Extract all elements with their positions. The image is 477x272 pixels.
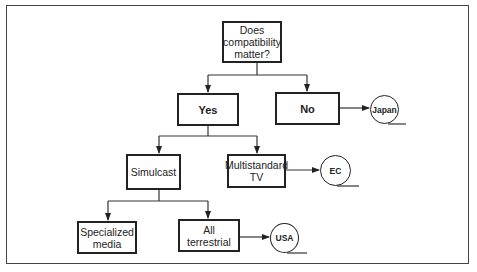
node-label-line: TV [225, 171, 288, 183]
node-label-line: All [187, 224, 231, 236]
node-label: Simulcast [131, 166, 177, 178]
node-label-line: media [80, 238, 134, 250]
node-label-line: Does [223, 24, 281, 36]
node-all-terrestrial: All terrestrial [178, 219, 240, 252]
node-no: No [275, 92, 340, 125]
node-label: No [300, 103, 315, 115]
node-label-line: matter? [223, 48, 281, 60]
node-multistandard-tv: Multistandard TV [227, 154, 286, 188]
terminal-label: Japan [372, 105, 397, 115]
node-specialized-media: Specialized media [77, 221, 137, 254]
terminal-japan: Japan [370, 95, 399, 124]
terminal-usa: USA [270, 223, 299, 253]
node-yes: Yes [177, 93, 239, 126]
decision-node-compatibility: Does compatibility matter? [222, 21, 282, 63]
terminal-label: EC [330, 166, 342, 176]
node-label-line: compatibility [223, 36, 281, 48]
node-label-line: terrestrial [187, 236, 231, 248]
terminal-ec: EC [320, 155, 351, 186]
node-label: Yes [199, 104, 218, 116]
terminal-label: USA [276, 233, 294, 243]
node-label-line: Specialized [80, 226, 134, 238]
node-simulcast: Simulcast [126, 154, 181, 190]
node-label-line: Multistandard [225, 159, 288, 171]
